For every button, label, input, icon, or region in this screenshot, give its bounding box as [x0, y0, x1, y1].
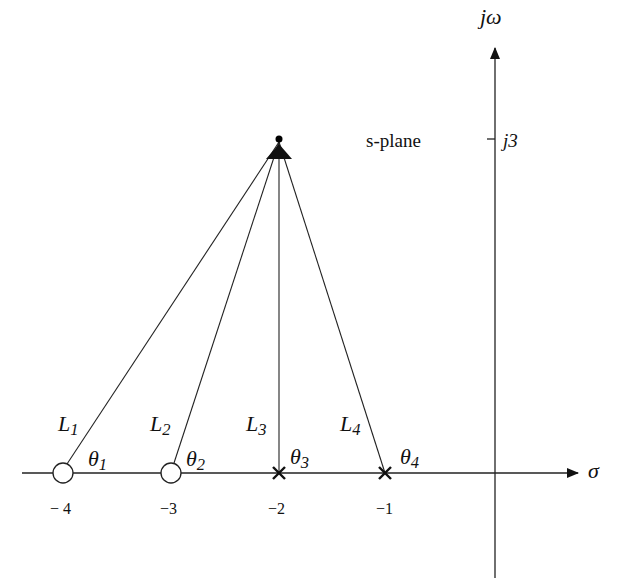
tick-minus1: −1: [376, 501, 393, 517]
s-plane-diagram: jω σ j3 s-plane L1 L2 L3 L4 θ1 θ2 θ3 θ4 …: [0, 0, 619, 587]
zero-marker-minus4: [53, 463, 73, 483]
arrowheads-icon: [266, 144, 292, 159]
L4-label: L4: [340, 413, 361, 439]
diagram-graphics: [0, 0, 619, 587]
s-plane-label: s-plane: [366, 131, 421, 150]
theta3-label: θ3: [290, 446, 309, 472]
jomega-label: jω: [480, 6, 502, 28]
theta1-label: θ1: [88, 448, 107, 474]
theta4-label: θ4: [400, 446, 419, 472]
tick-minus3: −3: [160, 501, 177, 517]
test-point: [276, 136, 283, 143]
L1-label: L1: [58, 413, 79, 439]
L3-label: L3: [246, 413, 267, 439]
vector-L4: [279, 142, 385, 473]
tick-minus4: − 4: [50, 501, 71, 517]
sigma-label: σ: [588, 460, 599, 482]
theta2-label: θ2: [186, 448, 205, 474]
zero-marker-minus3: [161, 463, 181, 483]
L2-label: L2: [150, 413, 171, 439]
tick-minus2: −2: [268, 501, 285, 517]
j3-label: j3: [503, 131, 518, 150]
